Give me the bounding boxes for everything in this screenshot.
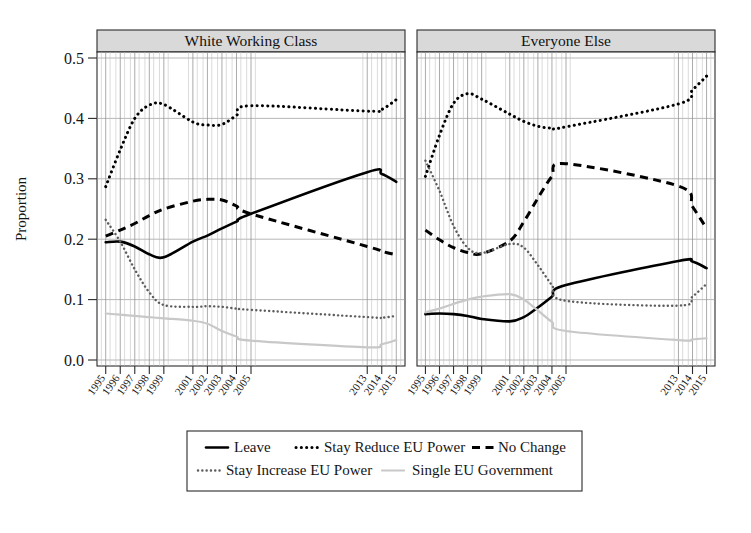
panel-strip-title: Everyone Else	[521, 32, 611, 49]
legend-item-label: Stay Increase EU Power	[226, 462, 372, 478]
y-axis-tick-label: 0.0	[64, 352, 84, 369]
y-axis-tick-label: 0.3	[64, 170, 84, 187]
y-axis-title: Proportion	[13, 176, 29, 241]
legend-item-label: Stay Reduce EU Power	[324, 439, 465, 455]
y-axis-tick-label: 0.1	[64, 291, 84, 308]
legend-item-label: Single EU Government	[412, 462, 554, 478]
y-axis-tick-label: 0.4	[64, 110, 84, 127]
y-axis-tick-label: 0.2	[64, 231, 84, 248]
eu-attitudes-line-chart: White Working Class199519961997199819992…	[0, 0, 751, 533]
figure-container: White Working Class199519961997199819992…	[0, 0, 751, 533]
legend: LeaveStay Reduce EU PowerNo ChangeStay I…	[187, 431, 582, 491]
legend-item-label: No Change	[498, 439, 566, 455]
panel-everyone-else: Everyone Else199519961997199819992001200…	[405, 30, 715, 397]
y-axis-tick-label: 0.5	[64, 50, 84, 67]
panel-strip-title: White Working Class	[185, 32, 318, 49]
legend-item-label: Leave	[234, 439, 271, 455]
panel-white-working-class: White Working Class199519961997199819992…	[85, 30, 405, 397]
